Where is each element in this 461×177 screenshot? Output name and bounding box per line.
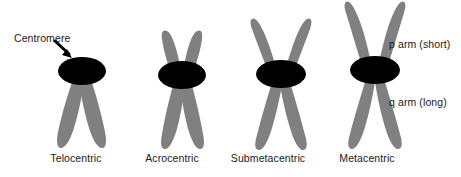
q-arm-annotation-label: q arm (long) <box>389 96 447 108</box>
chromosome-diagram: Centromere p arm (short) q arm (long) Te… <box>0 0 461 177</box>
submetacentric-centromere <box>256 60 306 88</box>
chromosome-acrocentric <box>158 30 206 149</box>
diagram-canvas <box>0 0 461 177</box>
telocentric-centromere <box>58 57 106 85</box>
metacentric-centromere <box>350 56 400 84</box>
caption-telocentric: Telocentric <box>24 152 128 164</box>
chromosome-submetacentric <box>251 18 312 150</box>
chromosome-telocentric <box>57 57 106 148</box>
centromere-annotation-label: Centromere <box>14 32 70 44</box>
caption-metacentric: Metacentric <box>312 152 422 164</box>
p-arm-annotation-label: p arm (short) <box>389 38 450 50</box>
acrocentric-centromere <box>158 61 206 89</box>
chromosome-metacentric <box>345 1 406 149</box>
caption-submetacentric: Submetacentric <box>208 152 328 164</box>
